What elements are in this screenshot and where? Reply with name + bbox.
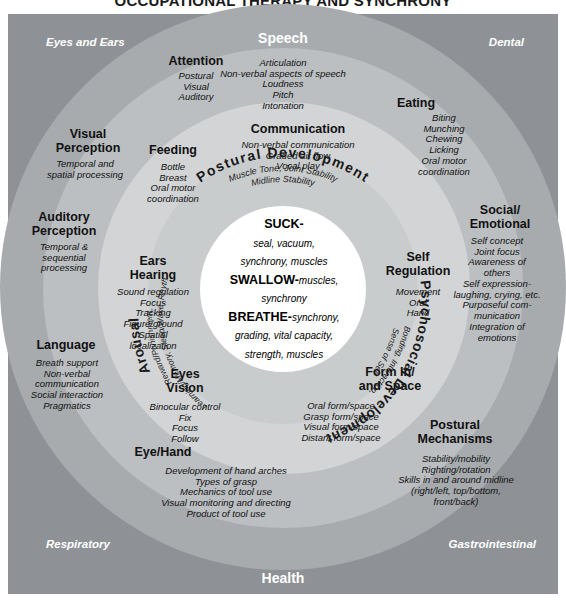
mid-form-in-and-space-title: Form In/ and Space bbox=[338, 366, 442, 393]
core-text: SUCK- seal, vacuum, synchrony, muscles S… bbox=[194, 214, 374, 362]
corner-label-respiratory: Respiratory bbox=[46, 538, 110, 550]
outer-language-title: Language bbox=[14, 339, 118, 353]
diagram-board: Eyes and Ears Dental Respiratory Gastroi… bbox=[8, 14, 558, 594]
outer-eating-items: Biting Munching Chewing Licking Oral mot… bbox=[396, 113, 492, 177]
edge-label-health: Health bbox=[8, 570, 558, 586]
mid-self-regulation-items: Movement Oral Hand bbox=[366, 287, 470, 319]
outer-postural-mechanisms-items: Stability/mobility Righting/rotation Ski… bbox=[376, 454, 536, 508]
edge-label-speech: Speech bbox=[8, 30, 558, 46]
mid-communication-items: Non-verbal communication Graded air flow… bbox=[208, 140, 388, 172]
outer-eye-hand-items: Development of hand arches Types of gras… bbox=[126, 466, 326, 520]
outer-eye-hand-title: Eye/Hand bbox=[108, 446, 218, 460]
mid-feeding-items: Bottle Breast Oral motor coordination bbox=[126, 162, 220, 205]
outer-eating-title: Eating bbox=[376, 97, 456, 111]
outer-language-items: Breath support Non-verbal communication … bbox=[12, 358, 122, 412]
mid-attention-items: Postural Visual Auditory bbox=[146, 71, 246, 103]
mid-self-regulation-title: Self Regulation bbox=[366, 251, 470, 278]
outer-visual-perception-title: Visual Perception bbox=[36, 128, 140, 155]
outer-social-emotional-title: Social/ Emotional bbox=[448, 204, 552, 231]
mid-attention-title: Attention bbox=[146, 55, 246, 69]
outer-auditory-perception-title: Auditory Perception bbox=[12, 211, 116, 238]
mid-eyes-vision-title: Eyes Vision bbox=[142, 368, 228, 395]
mid-form-in-and-space-items: Oral form/space Grasp form/space Visual … bbox=[266, 401, 416, 444]
diagram-page: OCCUPATIONAL THERAPY AND SYNCHRONY Eyes … bbox=[0, 0, 566, 608]
mid-feeding-title: Feeding bbox=[130, 144, 216, 158]
mid-communication-title: Communication bbox=[230, 123, 366, 137]
mid-eyes-vision-items: Binocular control Fix Focus Follow bbox=[130, 402, 240, 445]
outer-postural-mechanisms-title: Postural Mechanisms bbox=[400, 419, 510, 446]
outer-auditory-perception-items: Temporal & sequential processing bbox=[12, 242, 116, 274]
mid-ears-hearing-title: Ears Hearing bbox=[108, 255, 198, 282]
corner-label-gastrointestinal: Gastrointestinal bbox=[448, 538, 536, 550]
